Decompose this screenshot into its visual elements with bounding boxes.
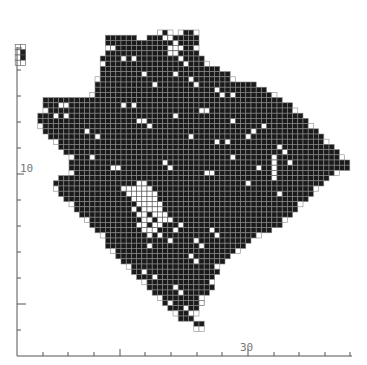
filled-cell (298, 196, 303, 201)
filled-cell (137, 72, 142, 77)
filled-cell (204, 269, 209, 274)
empty-cell (272, 165, 277, 170)
filled-cell (152, 165, 157, 170)
filled-cell (282, 108, 287, 113)
filled-cell (194, 186, 199, 191)
filled-cell (194, 35, 199, 40)
inset-cell (15, 60, 20, 65)
filled-cell (163, 238, 168, 243)
filled-cell (215, 134, 220, 139)
filled-cell (126, 51, 131, 56)
filled-cell (64, 139, 69, 144)
filled-cell (251, 134, 256, 139)
filled-cell (287, 186, 292, 191)
empty-cell (178, 56, 183, 61)
filled-cell (241, 124, 246, 129)
filled-cell (251, 82, 256, 87)
filled-cell (194, 264, 199, 269)
filled-cell (267, 129, 272, 134)
filled-cell (152, 285, 157, 290)
filled-cell (48, 134, 53, 139)
filled-cell (147, 181, 152, 186)
filled-cell (100, 72, 105, 77)
filled-cell (209, 207, 214, 212)
filled-cell (246, 103, 251, 108)
filled-cell (147, 155, 152, 160)
filled-cell (163, 254, 168, 259)
filled-cell (168, 108, 173, 113)
filled-cell (199, 202, 204, 207)
filled-cell (313, 170, 318, 175)
filled-cell (105, 35, 110, 40)
filled-cell (204, 186, 209, 191)
filled-cell (74, 186, 79, 191)
empty-cell (53, 113, 58, 118)
empty-cell (199, 108, 204, 113)
filled-cell (90, 181, 95, 186)
filled-cell (163, 233, 168, 238)
filled-cell (199, 139, 204, 144)
filled-cell (147, 274, 152, 279)
filled-cell (121, 144, 126, 149)
filled-cell (298, 202, 303, 207)
filled-cell (241, 155, 246, 160)
filled-cell (126, 264, 131, 269)
filled-cell (230, 207, 235, 212)
empty-cell (142, 212, 147, 217)
filled-cell (105, 40, 110, 45)
filled-cell (194, 306, 199, 311)
filled-cell (74, 144, 79, 149)
filled-cell (261, 196, 266, 201)
filled-cell (116, 98, 121, 103)
filled-cell (59, 139, 64, 144)
filled-cell (163, 30, 168, 35)
filled-cell (220, 124, 225, 129)
filled-cell (121, 181, 126, 186)
filled-cell (116, 124, 121, 129)
filled-cell (43, 103, 48, 108)
filled-cell (85, 186, 90, 191)
filled-cell (95, 191, 100, 196)
filled-cell (256, 134, 261, 139)
filled-cell (126, 150, 131, 155)
filled-cell (168, 40, 173, 45)
filled-cell (230, 217, 235, 222)
filled-cell (105, 103, 110, 108)
filled-cell (64, 176, 69, 181)
filled-cell (235, 118, 240, 123)
filled-cell (272, 212, 277, 217)
filled-cell (121, 170, 126, 175)
filled-cell (209, 150, 214, 155)
filled-cell (199, 134, 204, 139)
filled-cell (168, 77, 173, 82)
filled-cell (241, 82, 246, 87)
filled-cell (79, 108, 84, 113)
filled-cell (303, 176, 308, 181)
filled-cell (173, 129, 178, 134)
filled-cell (209, 124, 214, 129)
filled-cell (220, 139, 225, 144)
filled-cell (163, 134, 168, 139)
filled-cell (95, 186, 100, 191)
filled-cell (137, 40, 142, 45)
filled-cell (251, 202, 256, 207)
filled-cell (157, 103, 162, 108)
filled-cell (173, 82, 178, 87)
filled-cell (256, 228, 261, 233)
x-tick-label: 30 (240, 341, 253, 354)
filled-cell (230, 181, 235, 186)
filled-cell (163, 300, 168, 305)
filled-cell (189, 259, 194, 264)
filled-cell (121, 134, 126, 139)
filled-cell (126, 108, 131, 113)
filled-cell (209, 82, 214, 87)
filled-cell (126, 254, 131, 259)
filled-cell (168, 124, 173, 129)
filled-cell (220, 129, 225, 134)
filled-cell (152, 144, 157, 149)
filled-cell (194, 98, 199, 103)
filled-cell (194, 92, 199, 97)
filled-cell (152, 118, 157, 123)
filled-cell (168, 248, 173, 253)
filled-cell (272, 207, 277, 212)
